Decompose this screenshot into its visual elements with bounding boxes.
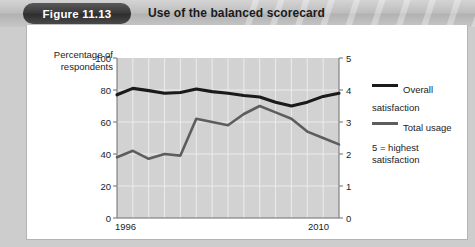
figure-title: Use of the balanced scorecard	[148, 4, 325, 23]
legend-item-overall-satisfaction: Overall satisfaction	[372, 79, 467, 115]
legend-label-overall-satisfaction: Overall satisfaction	[372, 84, 433, 113]
legend-swatch-overall-satisfaction	[372, 84, 398, 87]
gridlines-group	[117, 58, 339, 218]
figure-container: Figure 11.13 Use of the balanced scoreca…	[0, 0, 475, 247]
chart-legend: Overall satisfaction Total usage	[372, 79, 467, 137]
legend-swatch-total-usage	[372, 122, 398, 125]
figure-number-badge: Figure 11.13	[23, 3, 131, 24]
figure-body-panel: Percentage of respondents 100 80 60 40 2…	[26, 25, 468, 240]
legend-label-total-usage: Total usage	[403, 122, 452, 133]
figure-header: Figure 11.13 Use of the balanced scoreca…	[0, 0, 475, 27]
legend-note: 5 = highest satisfaction	[372, 142, 470, 165]
legend-item-total-usage: Total usage	[372, 117, 467, 135]
